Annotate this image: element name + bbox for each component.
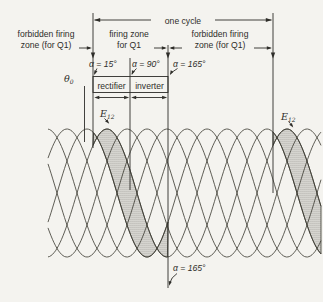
one-cycle-arrow-right — [266, 18, 272, 22]
forbidden-zone-right-label-line2: zone (for Q1) — [195, 40, 246, 50]
inverter-dim-arrow-right — [162, 96, 167, 99]
alpha-165-label: α = 165° — [173, 59, 206, 69]
alpha-15-leader — [94, 70, 97, 75]
waveform-curve-3 — [48, 129, 321, 257]
forbidden-zone-right-label-line1: forbidden firing — [192, 29, 249, 39]
firing-zone-label-line2: for Q1 — [117, 40, 141, 50]
waveform-curve-0 — [48, 129, 321, 257]
shaded-band-right — [273, 129, 321, 254]
rectifier-label: rectifier — [97, 81, 125, 91]
alpha-165-bottom-leader — [169, 281, 172, 286]
down-arrow-alpha15 — [91, 53, 95, 59]
one-cycle-label: one cycle — [165, 16, 202, 26]
forbidden-right-right-arrow — [267, 46, 272, 49]
firing-zone-right-arrow — [162, 46, 167, 49]
shaded-firing-bands — [93, 129, 321, 257]
alpha-165-bottom-label: α = 165° — [173, 263, 206, 273]
inverter-dim-arrow-left — [131, 96, 136, 99]
e12-label-left: E12 — [99, 108, 115, 120]
alpha-165-leader — [170, 70, 174, 75]
voltage-waveforms — [48, 129, 321, 257]
one-cycle-arrow-left — [94, 18, 100, 22]
waveform-curve-4 — [48, 129, 321, 257]
forbidden-left-arrow — [87, 46, 92, 49]
forbidden-zone-left-label-line2: zone (for Q1) — [21, 40, 72, 50]
rectifier-dim-arrow-right — [124, 96, 129, 99]
inverter-label: inverter — [135, 81, 164, 91]
waveform-curve-1 — [48, 129, 321, 257]
waveform-curve-2 — [48, 129, 321, 257]
firing-zone-diagram: one cycle forbidden firing zone (for Q1)… — [0, 0, 323, 302]
theta0-label: θ0 — [64, 73, 74, 85]
down-arrow-alpha165 — [166, 53, 170, 59]
forbidden-zone-left-label-line1: forbidden firing — [18, 29, 75, 39]
alpha-15-label: α = 15° — [89, 59, 117, 69]
alpha-90-label: α = 90° — [132, 59, 160, 69]
firing-zone-label-line1: firing zone — [109, 29, 149, 39]
e12-label-right: E12 — [280, 111, 296, 123]
e12-right-leader — [289, 123, 293, 128]
down-arrow-cycle-end — [271, 53, 275, 59]
waveform-curve-5 — [48, 129, 321, 257]
rectifier-dim-arrow-left — [94, 96, 99, 99]
forbidden-right-left-arrow — [169, 46, 174, 49]
